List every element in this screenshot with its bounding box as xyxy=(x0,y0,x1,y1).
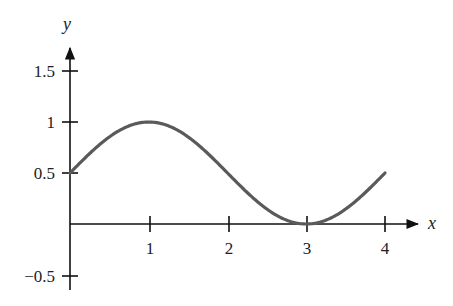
x-tick-label: 3 xyxy=(303,239,312,258)
y-axis-label: y xyxy=(61,14,71,34)
y-tick-label: 1 xyxy=(47,113,56,132)
y-tick-label: 0.5 xyxy=(34,164,55,183)
x-tick-label: 2 xyxy=(225,239,234,258)
y-tick-label: −0.5 xyxy=(24,267,55,286)
y-tick-label: 1.5 xyxy=(34,62,55,81)
x-axis-label: x xyxy=(427,213,436,233)
x-tick-label: 4 xyxy=(381,239,390,258)
x-tick-label: 1 xyxy=(146,239,155,258)
function-plot: y x 1.510.5−0.5 1234 xyxy=(0,0,453,306)
sine-curve xyxy=(70,122,385,224)
x-ticks: 1234 xyxy=(146,216,390,258)
